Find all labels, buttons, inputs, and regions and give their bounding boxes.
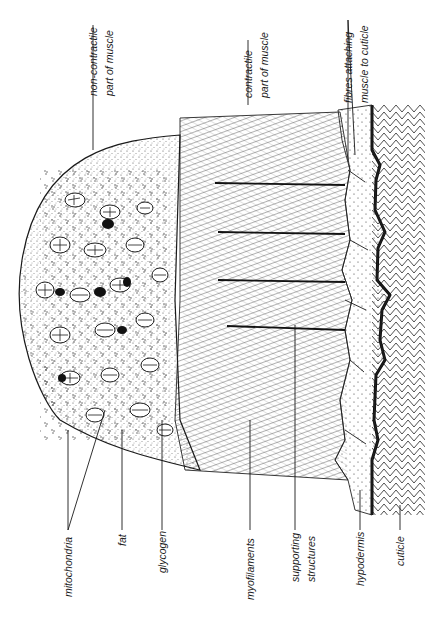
label-supporting-line2: structures [305, 535, 317, 582]
label-non-contractile-line1: non-contractile [87, 27, 99, 96]
label-non-contractile-line2: part of muscle [103, 30, 115, 97]
label-contractile-line2: part of muscle [258, 32, 270, 99]
non-contractile-part [19, 135, 200, 470]
label-supporting-line1: supporting [289, 533, 301, 582]
label-cuticle: cuticle [394, 536, 406, 566]
label-glycogen: glycogen [156, 531, 168, 573]
label-contractile-line1: contractile [242, 50, 254, 98]
contractile-part [175, 112, 352, 480]
label-myofilaments: myofilaments [244, 537, 256, 600]
label-fibres-line2: muscle to cuticle [358, 25, 370, 103]
label-hypodermis: hypodermis [354, 531, 366, 586]
label-mitochondria: mitochondria [62, 537, 74, 597]
muscle-diagram: non-contractile part of muscle contracti… [0, 0, 433, 617]
label-fibres-line1: fibres attaching [342, 32, 354, 103]
label-fat: fat [116, 533, 128, 546]
